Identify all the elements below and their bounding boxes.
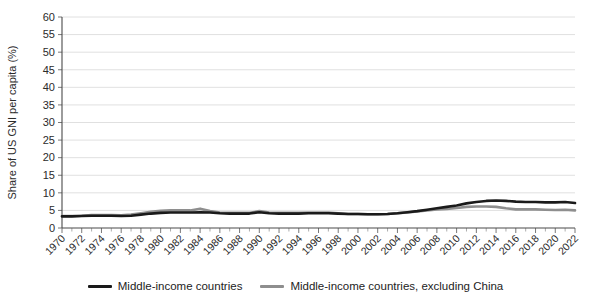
x-axis-tick-label: 1978 [121, 232, 146, 257]
x-axis-tick-label: 2006 [398, 232, 423, 257]
y-axis-tick-label: 60 [43, 11, 55, 23]
y-axis-tick-label: 15 [43, 169, 55, 181]
legend-line-swatch-icon [88, 285, 112, 288]
y-axis-tick-label: 25 [43, 134, 55, 146]
x-axis-tick-label: 2016 [496, 232, 521, 257]
legend-line-swatch-icon [260, 285, 284, 288]
legend-item-label: Middle-income countries, excluding China [290, 281, 503, 293]
y-axis-tick-label: 10 [43, 187, 55, 199]
x-axis-tick-label: 2010 [437, 232, 462, 257]
x-axis-tick-label: 1996 [299, 232, 324, 257]
x-axis-tick-label: 1992 [259, 232, 284, 257]
x-axis-tick-label: 2012 [457, 232, 482, 257]
x-axis-tick-label: 1974 [82, 232, 107, 257]
data-series-group [62, 201, 575, 217]
y-axis-tickmarks [58, 17, 62, 228]
x-axis-tick-label: 2000 [338, 232, 363, 257]
x-axis-tick-label: 2008 [417, 232, 442, 257]
x-axis-tick-label: 2022 [555, 232, 580, 257]
x-axis-tick-label: 2018 [516, 232, 541, 257]
x-axis-tick-label: 1984 [181, 232, 206, 257]
x-axis-tick-label: 1998 [319, 232, 344, 257]
x-axis-tick-label: 1990 [240, 232, 265, 257]
y-axis-title: Share of US GNI per capita (%) [6, 45, 18, 199]
chart-plot-svg: 051015202530354045505560 197019721974197… [0, 0, 591, 268]
y-axis-tick-label: 20 [43, 151, 55, 163]
legend-item-middle-income-countries-excluding-china[interactable]: Middle-income countries, excluding China [260, 281, 503, 293]
x-axis-tick-label: 2020 [536, 232, 561, 257]
y-axis-tick-label: 50 [43, 46, 55, 58]
x-axis-tick-label: 1972 [62, 232, 87, 257]
x-axis-tick-label: 1976 [102, 232, 127, 257]
legend-item-middle-income-countries[interactable]: Middle-income countries [88, 281, 243, 293]
line-chart: 051015202530354045505560 197019721974197… [0, 0, 591, 298]
y-axis-title-text: Share of US GNI per capita (%) [6, 45, 18, 199]
y-axis-tick-labels: 051015202530354045505560 [43, 11, 55, 234]
y-axis-tick-label: 0 [49, 222, 55, 234]
x-axis-tick-label: 1970 [42, 232, 67, 257]
x-axis-tick-label: 2002 [358, 232, 383, 257]
y-axis-tick-label: 55 [43, 28, 55, 40]
gridlines-group [62, 17, 575, 210]
chart-canvas: 051015202530354045505560 197019721974197… [0, 0, 591, 272]
x-axis-tick-label: 1986 [200, 232, 225, 257]
x-axis-tick-labels: 1970197219741976197819801982198419861988… [42, 232, 580, 257]
x-axis-tick-label: 2014 [476, 232, 501, 257]
x-axis-tick-label: 2004 [378, 232, 403, 257]
y-axis-tick-label: 5 [49, 204, 55, 216]
x-axis-tick-label: 1988 [220, 232, 245, 257]
x-axis-tickmarks [62, 228, 575, 233]
x-axis-tick-label: 1980 [141, 232, 166, 257]
y-axis-tick-label: 45 [43, 64, 55, 76]
y-axis-tick-label: 35 [43, 99, 55, 111]
legend-item-label: Middle-income countries [118, 281, 243, 293]
x-axis-tick-label: 1994 [279, 232, 304, 257]
chart-legend: Middle-income countries Middle-income co… [0, 281, 591, 293]
x-axis-tick-label: 1982 [161, 232, 186, 257]
y-axis-tick-label: 40 [43, 81, 55, 93]
y-axis-tick-label: 30 [43, 116, 55, 128]
